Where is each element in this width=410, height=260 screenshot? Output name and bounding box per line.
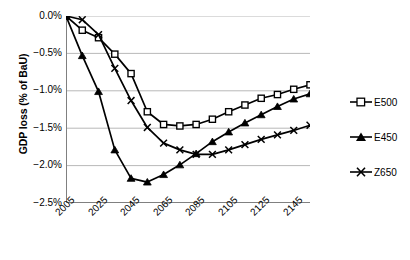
legend-label-e500: E500: [374, 97, 397, 108]
legend-marker-filled-triangle-icon: [349, 130, 373, 144]
x-axis-tick-label: 2045: [118, 194, 142, 218]
chart-legend: E500 E450 Z650: [349, 95, 410, 200]
legend-label-z650: Z650: [374, 167, 397, 178]
x-axis-tick-label: 2025: [86, 194, 110, 218]
gdp-loss-line-chart: GDP loss (% of BaU) 0.0%−0.5%−1.0%−1.5%−…: [0, 0, 410, 260]
x-axis-tick-label: 2085: [183, 194, 207, 218]
x-axis-tick-label: 2065: [151, 194, 175, 218]
legend-marker-open-square-icon: [349, 95, 373, 109]
legend-marker-cross-x-icon: [349, 165, 373, 179]
legend-item-0[interactable]: E500: [349, 95, 410, 109]
legend-label-e450: E450: [374, 132, 397, 143]
x-axis-tick-label: 2005: [53, 194, 77, 218]
x-axis-tick-label: 2145: [281, 194, 305, 218]
legend-item-2[interactable]: Z650: [349, 165, 410, 179]
legend-item-1[interactable]: E450: [349, 130, 410, 144]
x-axis-tick-label: 2105: [216, 194, 240, 218]
x-axis-tick-label: 2125: [248, 194, 272, 218]
